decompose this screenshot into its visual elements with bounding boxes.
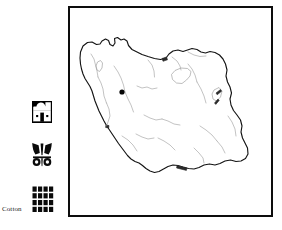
west-shore-segment <box>106 125 109 128</box>
map-frame <box>68 6 273 217</box>
emblem-pictogram-icon <box>31 142 53 168</box>
legend-panel: Cotton <box>0 0 66 230</box>
iran-outline-map <box>70 8 271 215</box>
legend-label-cotton: Cotton <box>2 205 22 214</box>
site-marker <box>119 89 124 94</box>
cotton-weave-grid-icon <box>32 186 54 214</box>
building-pictogram-icon <box>32 101 52 123</box>
